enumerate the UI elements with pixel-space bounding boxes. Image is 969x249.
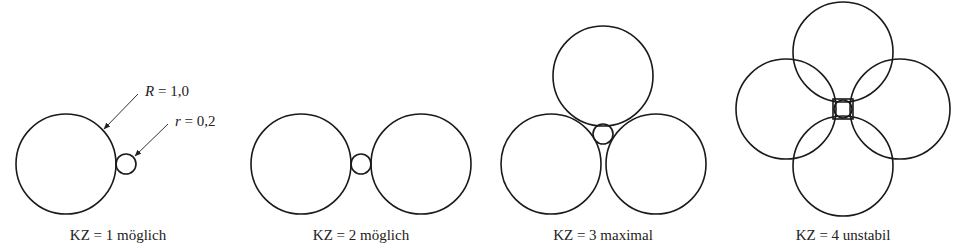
small-sphere	[351, 154, 371, 174]
small-sphere	[116, 154, 136, 174]
arrow-large-radius	[104, 94, 138, 129]
coordination-diagram: R = 1,0 r = 0,2 KZ = 1 möglich KZ = 2 mö…	[0, 0, 969, 249]
panel-kz-1: R = 1,0 r = 0,2 KZ = 1 möglich	[16, 83, 216, 243]
small-sphere	[593, 124, 613, 144]
arrow-small-radius	[135, 124, 168, 156]
large-sphere	[16, 114, 116, 214]
large-sphere	[501, 114, 601, 214]
caption-kz-1: KZ = 1 möglich	[70, 227, 167, 243]
large-sphere	[850, 59, 950, 159]
large-sphere	[736, 59, 836, 159]
label-large-radius: R = 1,0	[144, 83, 189, 99]
caption-kz-2: KZ = 2 möglich	[313, 227, 410, 243]
panel-kz-2: KZ = 2 möglich	[251, 114, 471, 243]
large-sphere	[371, 114, 471, 214]
large-sphere	[793, 2, 893, 102]
large-sphere	[553, 26, 653, 126]
caption-kz-4: KZ = 4 unstabil	[796, 227, 891, 243]
panel-kz-4: KZ = 4 unstabil	[736, 2, 950, 243]
label-small-radius: r = 0,2	[175, 113, 216, 129]
caption-kz-3: KZ = 3 maximal	[553, 227, 653, 243]
large-sphere	[606, 114, 706, 214]
panel-kz-3: KZ = 3 maximal	[501, 26, 706, 243]
large-sphere	[793, 116, 893, 216]
large-sphere	[251, 114, 351, 214]
